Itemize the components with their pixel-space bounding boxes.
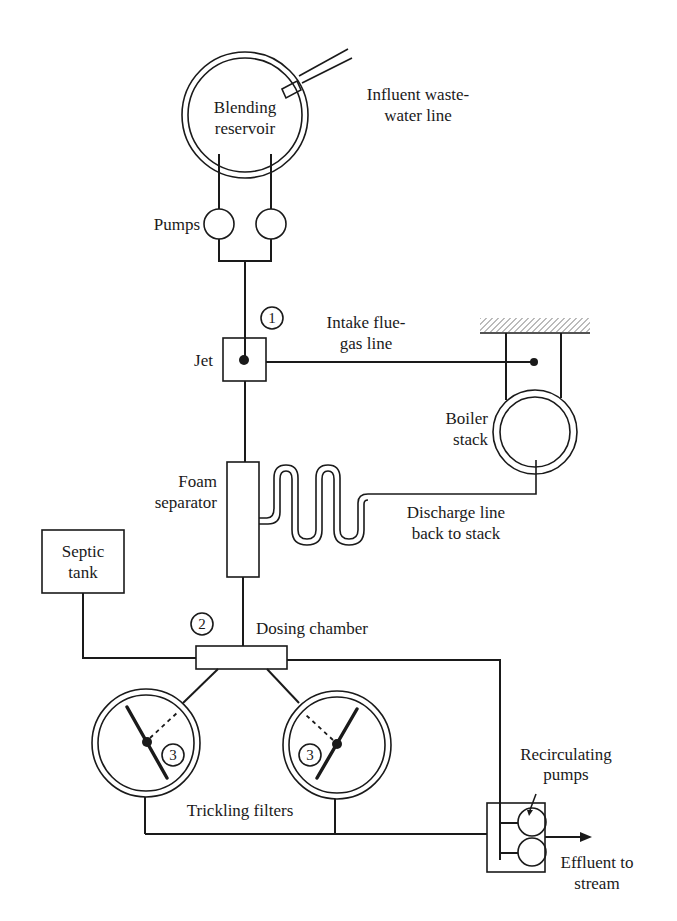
discharge-label-2: back to stack [412, 524, 501, 543]
septic-tank-label-1: Septic [62, 542, 105, 561]
marker-2: 2 [198, 616, 206, 632]
filters-outlet-line: Trickling filters [145, 797, 487, 834]
trickling-filter-right: 3 [283, 691, 391, 799]
trickling-filters-label: Trickling filters [187, 801, 294, 820]
marker-1: 1 [268, 310, 276, 326]
blending-reservoir-label-1: Blending [214, 98, 277, 117]
recirculating-pumps-label-1: Recirculating [520, 745, 612, 764]
influent-label-1: Influent waste- [367, 85, 470, 104]
foam-separator-label-1: Foam [178, 472, 217, 491]
discharge-label-1: Discharge line [407, 503, 505, 522]
marker-3-left: 3 [169, 747, 177, 763]
foam-separator: Foam separator [155, 462, 259, 577]
influent-wastewater-line: Influent waste- water line [282, 49, 470, 125]
trickling-filter-left: 3 [92, 689, 200, 797]
pumps-label: Pumps [154, 215, 200, 234]
jet-label: Jet [194, 351, 213, 370]
boiler-stack-label-1: Boiler [446, 409, 489, 428]
flue-gas-label-2: gas line [340, 334, 392, 353]
blending-reservoir-label-2: reservoir [215, 119, 276, 138]
blending-reservoir: Blending reservoir [182, 52, 308, 178]
dosing-chamber-label: Dosing chamber [256, 619, 368, 638]
effluent-label-2: stream [574, 874, 619, 893]
boiler-stack-label-2: stack [453, 430, 488, 449]
jet: Jet 1 [194, 307, 283, 381]
recirculating-pumps-label-2: pumps [543, 765, 588, 784]
boiler-stack: Boiler stack [446, 318, 591, 474]
flue-gas-label-1: Intake flue- [327, 313, 406, 332]
arrow-right-icon [580, 832, 592, 842]
process-flow-diagram: Blending reservoir Influent waste- water… [0, 0, 677, 921]
effluent-to-stream: Effluent to stream [545, 832, 633, 893]
effluent-label-1: Effluent to [561, 853, 634, 872]
influent-label-2: water line [384, 106, 452, 125]
septic-tank-label-2: tank [68, 563, 98, 582]
pumps: Pumps [154, 154, 286, 261]
septic-tank: Septic tank [42, 530, 196, 658]
foam-separator-label-2: separator [155, 493, 218, 512]
discharge-coil: Discharge line back to stack [259, 460, 536, 545]
marker-3-right: 3 [306, 747, 314, 763]
